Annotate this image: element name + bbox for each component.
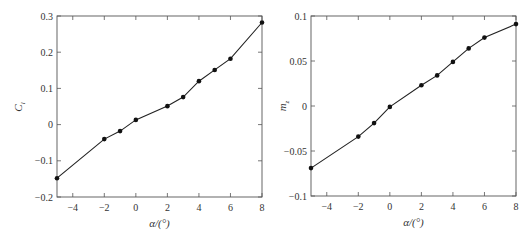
y-axis-label: Cl — [12, 102, 27, 111]
lift-coefficient-chart: −4−202468−0.2−0.100.10.20.3α/(°)Cl — [12, 11, 265, 231]
x-tick-label: 8 — [260, 202, 265, 213]
y-axis-label: mz — [276, 100, 291, 111]
x-axis-label: α/(°) — [149, 217, 170, 230]
pitching-moment-chart: −4−202468−0.1−0.0500.050.1α/(°)mz — [276, 11, 519, 230]
data-point-marker — [212, 68, 217, 73]
x-tick-label: 2 — [165, 202, 170, 213]
y-tick-label: −0.2 — [35, 192, 53, 203]
y-tick-label: 0 — [48, 119, 53, 130]
data-point-marker — [419, 83, 424, 88]
x-tick-label: 4 — [450, 201, 455, 212]
plot-frame — [57, 16, 262, 197]
x-tick-label: −2 — [99, 202, 110, 213]
y-tick-label: 0.1 — [41, 83, 54, 94]
data-point-marker — [451, 60, 456, 65]
y-tick-label: 0.1 — [295, 11, 308, 22]
data-point-marker — [514, 22, 519, 27]
chart-canvas: −4−202468−0.2−0.100.10.20.3α/(°)Cl −4−20… — [0, 0, 528, 238]
y-tick-label: −0.05 — [284, 146, 307, 157]
data-point-marker — [55, 176, 60, 181]
data-point-marker — [260, 20, 265, 25]
x-tick-label: 6 — [482, 201, 487, 212]
y-tick-label: 0.3 — [41, 11, 54, 22]
y-tick-label: 0.2 — [41, 47, 54, 58]
data-point-marker — [197, 79, 202, 84]
x-tick-label: 8 — [514, 201, 519, 212]
data-point-marker — [134, 118, 139, 123]
data-point-marker — [388, 105, 393, 110]
y-tick-label: −0.1 — [289, 191, 307, 202]
x-tick-label: −4 — [321, 201, 332, 212]
x-tick-label: 0 — [387, 201, 392, 212]
data-point-marker — [435, 73, 440, 78]
plot-frame — [311, 16, 516, 196]
data-point-marker — [309, 166, 314, 171]
data-point-marker — [228, 56, 233, 61]
data-point-marker — [181, 95, 186, 100]
data-point-marker — [372, 121, 377, 126]
x-tick-label: −2 — [353, 201, 364, 212]
data-point-marker — [165, 104, 170, 109]
data-point-marker — [466, 46, 471, 51]
y-tick-label: −0.1 — [35, 155, 53, 166]
data-point-marker — [356, 134, 361, 139]
series-line — [311, 24, 516, 168]
x-tick-label: 2 — [419, 201, 424, 212]
x-tick-label: 0 — [133, 202, 138, 213]
data-point-marker — [118, 129, 123, 134]
y-tick-label: 0 — [302, 101, 307, 112]
x-tick-label: 6 — [228, 202, 233, 213]
series-line — [57, 23, 262, 179]
data-point-marker — [482, 35, 487, 40]
x-tick-label: 4 — [196, 202, 201, 213]
x-axis-label: α/(°) — [403, 216, 424, 229]
y-tick-label: 0.05 — [290, 56, 308, 67]
data-point-marker — [102, 137, 107, 142]
x-tick-label: −4 — [67, 202, 78, 213]
